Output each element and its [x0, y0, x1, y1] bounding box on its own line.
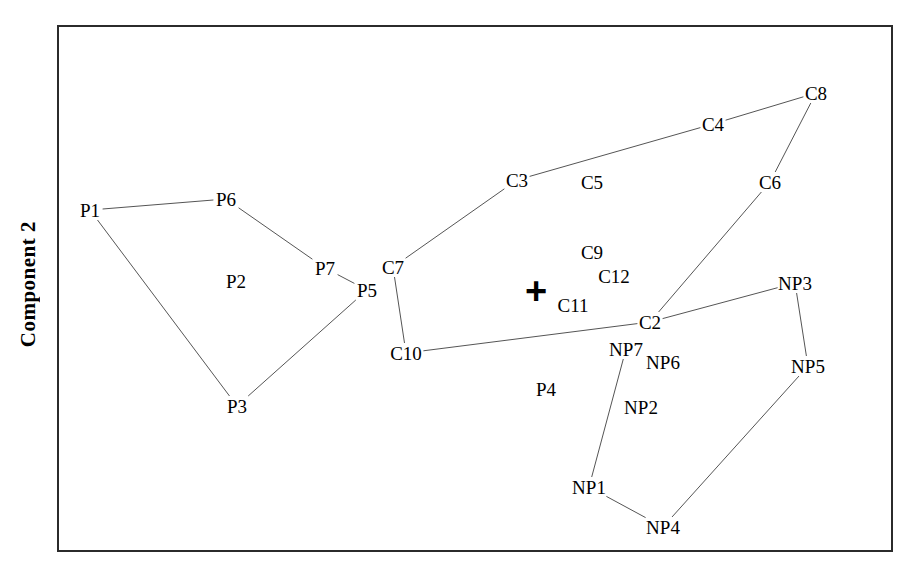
- point-label-c7[interactable]: C7: [382, 258, 404, 277]
- point-label-c6[interactable]: C6: [759, 173, 781, 192]
- point-label-np3[interactable]: NP3: [778, 274, 812, 293]
- point-label-c3[interactable]: C3: [506, 171, 528, 190]
- chart-page: Component 2 P1P6P2P7P5P3C7C10C3C5C4C8C6C…: [0, 0, 908, 569]
- point-label-c9[interactable]: C9: [581, 243, 603, 262]
- point-label-c2[interactable]: C2: [639, 313, 661, 332]
- point-label-c4[interactable]: C4: [702, 115, 724, 134]
- point-label-p3[interactable]: P3: [227, 397, 247, 416]
- y-axis-label-text: Component 2: [16, 221, 41, 347]
- point-label-np7[interactable]: NP7: [609, 340, 643, 359]
- point-label-c5[interactable]: C5: [581, 173, 603, 192]
- plot-area-border: [57, 25, 893, 552]
- point-label-np5[interactable]: NP5: [791, 357, 825, 376]
- point-label-p7[interactable]: P7: [315, 259, 335, 278]
- point-label-p6[interactable]: P6: [216, 190, 236, 209]
- point-label-np2[interactable]: NP2: [624, 398, 658, 417]
- point-label-np4[interactable]: NP4: [646, 518, 680, 537]
- point-label-p4[interactable]: P4: [536, 380, 556, 399]
- point-label-c10[interactable]: C10: [390, 344, 422, 363]
- point-label-np6[interactable]: NP6: [646, 353, 680, 372]
- point-label-p1[interactable]: P1: [80, 201, 100, 220]
- point-label-p2[interactable]: P2: [226, 272, 246, 291]
- y-axis-label: Component 2: [0, 0, 57, 569]
- point-label-c11[interactable]: C11: [558, 296, 589, 315]
- point-label-c12[interactable]: C12: [598, 267, 630, 286]
- point-label-c8[interactable]: C8: [805, 84, 827, 103]
- point-label-p5[interactable]: P5: [357, 281, 377, 300]
- point-label-np1[interactable]: NP1: [572, 478, 606, 497]
- origin-cross-marker: +: [525, 272, 547, 310]
